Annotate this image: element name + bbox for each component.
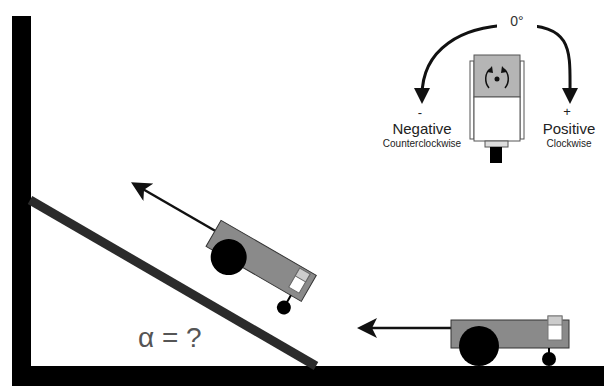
rear-wheel [459, 326, 499, 366]
negative-sign: - [410, 105, 430, 120]
counterclockwise-label: Counterclockwise [372, 138, 472, 149]
robot-on-incline [116, 174, 316, 319]
servo-icon [470, 55, 524, 163]
incline-diagram [0, 0, 604, 390]
caster-wheel [542, 352, 556, 366]
negative-label: Negative [378, 120, 466, 137]
floor [12, 366, 604, 386]
wall [12, 16, 31, 386]
robot-servo-top [548, 316, 562, 325]
arrowhead-positive-icon [562, 88, 578, 104]
caster-wheel [274, 298, 293, 317]
positive-label: Positive [537, 120, 601, 137]
motion-arrow [135, 185, 215, 231]
arrowhead-negative-icon [414, 88, 430, 104]
clockwise-label: Clockwise [537, 138, 601, 149]
robot-on-floor [362, 316, 569, 366]
zero-degree-label: 0° [497, 13, 537, 29]
incline-angle-label: α = ? [138, 322, 202, 354]
positive-sign: + [557, 104, 577, 119]
